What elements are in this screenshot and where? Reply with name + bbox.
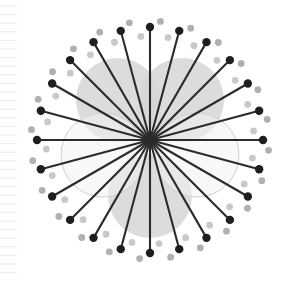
pale-dot	[226, 203, 233, 210]
pale-dot	[244, 101, 251, 108]
spoke-endpoint-dot	[117, 245, 125, 253]
pale-dot	[213, 57, 220, 64]
spoke-endpoint-dot	[202, 38, 210, 46]
pale-dot	[258, 177, 265, 184]
spoke-endpoint-dot	[175, 27, 183, 35]
pale-dot	[35, 96, 42, 103]
pale-dot	[249, 155, 256, 162]
pale-dot	[78, 234, 85, 241]
pale-dot	[52, 93, 59, 100]
spoke-endpoint-dot	[89, 234, 97, 242]
pale-dot	[111, 39, 118, 46]
radial-burst-figure	[0, 0, 299, 282]
spoke-endpoint-dot	[37, 165, 45, 173]
spoke-endpoint-dot	[48, 79, 56, 87]
spoke-endpoint-dot	[37, 107, 45, 115]
spoke-endpoint-dot	[146, 249, 154, 257]
pale-dot	[191, 42, 198, 49]
figure-root	[0, 0, 299, 282]
pale-dot	[49, 68, 56, 75]
pale-dot	[250, 128, 257, 135]
spoke-endpoint-dot	[244, 192, 252, 200]
pale-dot	[157, 18, 164, 25]
pale-dot	[129, 239, 136, 246]
pale-dot	[29, 157, 36, 164]
pale-dot	[215, 39, 222, 46]
pale-dot	[138, 33, 145, 40]
pale-dot	[39, 187, 46, 194]
spoke-endpoint-dot	[66, 216, 74, 224]
pale-dot	[254, 86, 261, 93]
pale-dot	[55, 213, 62, 220]
spoke-endpoint-dot	[255, 107, 263, 115]
spoke-endpoint-dot	[255, 165, 263, 173]
pale-dot	[264, 116, 271, 123]
spoke-endpoint-dot	[89, 38, 97, 46]
spoke-endpoint-dot	[226, 56, 234, 64]
pale-dot	[197, 244, 204, 251]
pale-dot	[103, 231, 110, 238]
pale-dot	[223, 228, 230, 235]
spoke-endpoint-dot	[66, 56, 74, 64]
pale-dot	[156, 240, 163, 247]
spoke-endpoint-dot	[226, 216, 234, 224]
pale-dot	[28, 126, 35, 133]
spoke-endpoint-dot	[202, 234, 210, 242]
pale-dot	[43, 146, 50, 153]
pale-dot	[244, 205, 251, 212]
pale-dot	[49, 172, 56, 179]
pale-dot	[70, 45, 77, 52]
pale-dot	[136, 255, 143, 262]
spoke-endpoint-dot	[259, 136, 267, 144]
pale-dot	[96, 29, 103, 36]
spoke-endpoint-dot	[33, 136, 41, 144]
pale-dot	[106, 248, 113, 255]
pale-dot	[182, 234, 189, 241]
pale-dot	[87, 51, 94, 58]
pale-dot	[67, 70, 74, 77]
pale-dot	[241, 181, 248, 188]
spoke-endpoint-dot	[146, 23, 154, 31]
pale-dot	[238, 60, 245, 67]
spoke-endpoint-dot	[48, 192, 56, 200]
pale-dot	[80, 216, 87, 223]
pale-dot	[61, 196, 68, 203]
pale-dot	[44, 119, 51, 126]
spoke-endpoint-dot	[117, 27, 125, 35]
pale-dot	[165, 34, 172, 41]
spoke-endpoint-dot	[175, 245, 183, 253]
pale-dot	[232, 77, 239, 84]
pale-dot	[187, 25, 194, 32]
pale-dot	[126, 19, 133, 26]
pale-dot	[167, 254, 174, 261]
spoke-endpoint-dot	[244, 79, 252, 87]
pale-dot	[265, 147, 272, 154]
pale-dot	[206, 222, 213, 229]
